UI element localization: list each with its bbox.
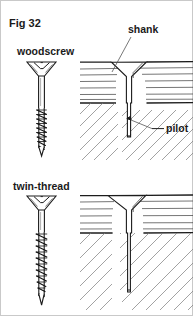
label-woodscrew: woodscrew	[16, 45, 75, 57]
label-shank: shank	[128, 23, 159, 35]
screw-fixing-diagram: Fig 32 woodscrew	[0, 0, 193, 316]
figure-canvas: Fig 32 woodscrew	[0, 0, 193, 316]
figure-number: Fig 32	[9, 17, 41, 29]
label-pilot: pilot	[166, 122, 189, 134]
label-twin-thread: twin-thread	[13, 180, 70, 192]
